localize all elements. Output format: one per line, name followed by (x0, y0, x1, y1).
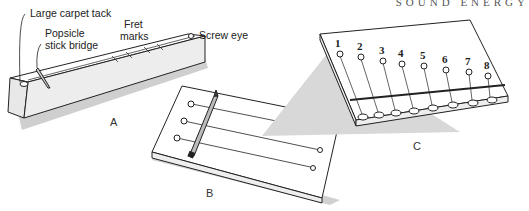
carpet-tack-icon (20, 82, 28, 87)
screw-eye-icon (311, 166, 316, 171)
label-fret-line2: marks (120, 31, 149, 42)
string-number-4: 4 (398, 47, 404, 59)
label-bridge-line1: Popsicle (45, 28, 85, 39)
string-number-8: 8 (484, 59, 490, 71)
label-screw-eye: Screw eye (199, 30, 248, 41)
figure-caption-b: B (206, 187, 213, 199)
label-fret-line1: Fret (124, 19, 143, 30)
screw-eye-icon (189, 34, 194, 39)
figure-c-drawing (262, 20, 508, 136)
string-number-5: 5 (420, 49, 426, 61)
string-number-6: 6 (442, 53, 448, 65)
label-bridge-line2: stick bridge (45, 40, 98, 51)
string-number-3: 3 (379, 44, 385, 56)
label-carpet-tack: Large carpet tack (30, 8, 111, 19)
string-number-1: 1 (335, 37, 341, 49)
figure-caption-c: C (413, 140, 421, 152)
string-number-7: 7 (465, 55, 471, 67)
screw-eye-icon (318, 148, 323, 153)
figure-caption-a: A (110, 116, 117, 128)
string-number-2: 2 (357, 40, 363, 52)
